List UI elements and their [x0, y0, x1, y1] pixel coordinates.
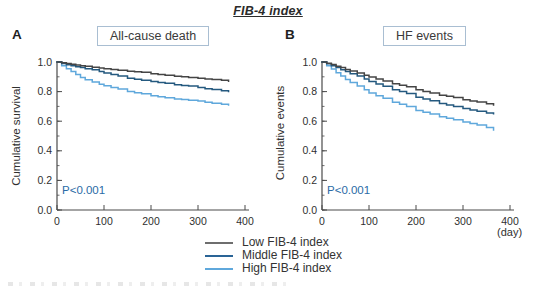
panel-b-title-box: HF events — [383, 26, 466, 46]
svg-text:0.8: 0.8 — [37, 85, 52, 97]
svg-text:1.0: 1.0 — [302, 56, 317, 68]
panel-a-y-axis-label: Cumulative survival — [10, 61, 24, 211]
kaplan-meier-plot-all-cause-death: 0.00.20.40.60.81.00100200300400 — [30, 50, 262, 234]
svg-text:0.6: 0.6 — [302, 115, 317, 127]
kaplan-meier-plot-hf-events: 0.00.20.40.60.81.00100200300400 — [295, 50, 527, 234]
svg-text:0.2: 0.2 — [37, 174, 52, 186]
svg-text:1.0: 1.0 — [37, 56, 52, 68]
panel-b-letter: B — [285, 27, 295, 42]
panel-a-pvalue: P<0.001 — [62, 184, 105, 196]
svg-text:0.2: 0.2 — [302, 174, 317, 186]
cropped-caption-remnant — [8, 282, 286, 286]
svg-text:300: 300 — [189, 215, 207, 227]
svg-text:200: 200 — [407, 215, 425, 227]
svg-text:100: 100 — [95, 215, 113, 227]
svg-text:0.0: 0.0 — [302, 204, 317, 216]
x-axis-unit-label: (day) — [497, 226, 522, 238]
figure-canvas: FIB-4 index A All-cause death B HF event… — [0, 0, 536, 286]
high-line-swatch — [205, 268, 233, 270]
svg-text:0: 0 — [54, 215, 60, 227]
svg-text:0: 0 — [319, 215, 325, 227]
panel-a-title-box: All-cause death — [97, 26, 209, 46]
legend-label-high: High FIB-4 index — [242, 262, 331, 275]
legend: Low FIB-4 index Middle FIB-4 index High … — [205, 236, 342, 275]
panel-b-y-axis-label: Cumulative events — [274, 58, 288, 208]
legend-item-high: High FIB-4 index — [205, 262, 342, 275]
svg-text:300: 300 — [454, 215, 472, 227]
svg-text:200: 200 — [142, 215, 160, 227]
svg-text:0.4: 0.4 — [302, 144, 317, 156]
svg-text:0.6: 0.6 — [37, 115, 52, 127]
svg-text:0.4: 0.4 — [37, 144, 52, 156]
svg-text:100: 100 — [360, 215, 378, 227]
middle-line-swatch — [205, 255, 233, 257]
panel-a-letter: A — [12, 27, 22, 42]
svg-text:400: 400 — [236, 215, 254, 227]
svg-text:0.8: 0.8 — [302, 85, 317, 97]
low-line-swatch — [205, 242, 233, 244]
svg-text:0.0: 0.0 — [37, 204, 52, 216]
panel-b-pvalue: P<0.001 — [327, 184, 370, 196]
figure-title: FIB-4 index — [0, 4, 536, 18]
